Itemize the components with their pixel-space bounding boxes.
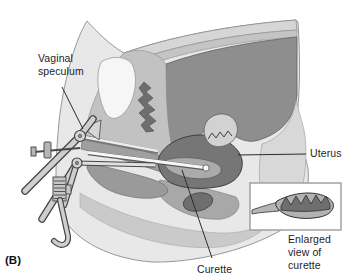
inset-enlarged-curette: [250, 183, 341, 230]
fimbriae: [204, 114, 237, 147]
speculum-thumbscrew: [44, 142, 51, 158]
speculum-pivot-upper-hole: [78, 134, 82, 138]
vaginal-speculum-label: Vaginal speculum: [38, 52, 84, 78]
speculum-ratchet-tab: [66, 185, 71, 194]
speculum-pivot-lower-hole: [75, 161, 78, 164]
uterus-label: Uterus: [310, 147, 342, 160]
speculum-rod-cap: [31, 147, 36, 156]
inset-caption-label: Enlarged view of curette: [288, 233, 347, 271]
curette-tip: [203, 165, 209, 171]
figure-panel: Vaginal speculum Uterus Curette Enlarged…: [0, 0, 347, 279]
curette-label: Curette: [197, 263, 232, 276]
panel-letter-label: (B): [5, 254, 21, 266]
speculum-lower-blade: [77, 163, 155, 165]
